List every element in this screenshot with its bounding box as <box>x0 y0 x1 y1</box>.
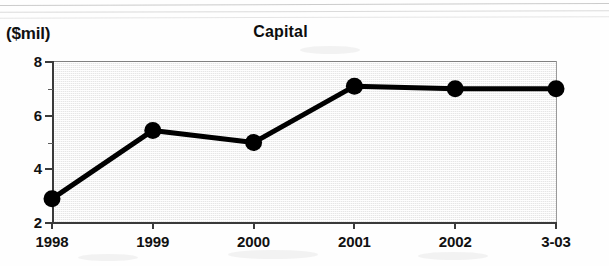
data-point-marker <box>44 190 61 207</box>
data-point-marker <box>548 80 565 97</box>
series-markers <box>44 78 565 208</box>
chart-figure: ($mil) Capital 8642 19981999200020012002… <box>0 0 609 266</box>
series-line <box>52 86 556 199</box>
data-series-capital <box>0 0 609 266</box>
data-point-marker <box>245 134 262 151</box>
data-point-marker <box>346 78 363 95</box>
data-point-marker <box>144 122 161 139</box>
data-point-marker <box>447 80 464 97</box>
